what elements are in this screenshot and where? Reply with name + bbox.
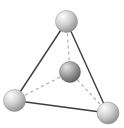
sphere-base-left — [4, 90, 26, 112]
tetrahedron-canvas — [0, 0, 124, 128]
tetrahedron-figure — [0, 0, 124, 128]
sphere-center — [60, 62, 81, 83]
sphere-apex — [56, 11, 78, 33]
sphere-base-right — [97, 102, 119, 124]
